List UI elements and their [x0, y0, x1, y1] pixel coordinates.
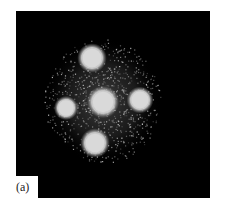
diffraction-pattern	[16, 11, 210, 198]
panel-label-box: (a)	[16, 176, 38, 198]
panel-label: (a)	[16, 180, 38, 194]
image-panel	[16, 11, 210, 198]
